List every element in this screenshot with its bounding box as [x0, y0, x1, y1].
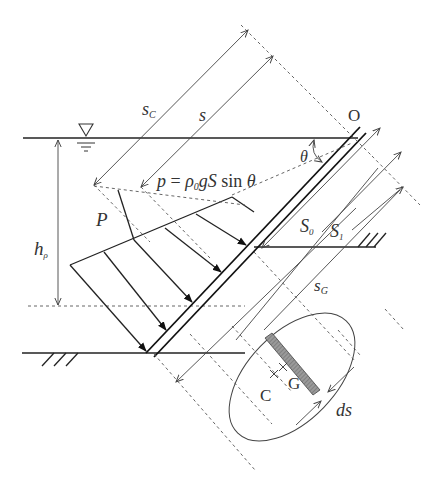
dashed-projector-1: [254, 252, 356, 362]
pressure-center-g-cross: [279, 363, 287, 371]
s-dashed-projector: [141, 187, 210, 258]
centroid-c-label: C: [260, 386, 271, 405]
depth-dimension: hρ: [34, 140, 58, 305]
dashed-projector-2: [154, 354, 255, 470]
ds-label: ds: [336, 400, 352, 420]
theta-label: θ: [300, 148, 308, 165]
s1-guide-line-2: [264, 190, 400, 330]
p-callout-line: [118, 190, 134, 240]
ds-arrow-top: [328, 367, 354, 392]
s-c-label: sC: [142, 99, 156, 120]
perpendicular-dashed-through-o: [241, 25, 372, 156]
s-c-arrow: [94, 30, 248, 185]
pressure-center-g-label: G: [288, 374, 300, 393]
dashed-projector-6: [385, 309, 404, 330]
bottom-ground: [22, 353, 245, 366]
pressure-top-edge: [70, 197, 232, 265]
pressure-formula: p = ρ0gS sin θ: [155, 171, 256, 192]
origin-label: O: [348, 106, 360, 125]
s1-arrow: [322, 152, 401, 232]
hydrostatic-inclined-plane-diagram: hρ sC s O θ: [0, 0, 446, 480]
centroid-c-cross: [270, 370, 278, 378]
s0-arrow: [262, 128, 380, 248]
depth-label: hρ: [34, 238, 49, 260]
s-label: s: [199, 105, 206, 125]
perpendicular-dashed-extension: [372, 156, 420, 205]
sg-label: sG: [314, 276, 328, 296]
s1-guide-line: [236, 168, 378, 340]
sg-arrow: [176, 208, 356, 382]
s0-label: S0: [300, 216, 314, 237]
dashed-projector-5: [338, 330, 360, 355]
right-ground: [254, 233, 386, 247]
inclined-plate: [146, 127, 366, 357]
total-force-label: P: [95, 209, 108, 230]
s-arrow: [141, 56, 273, 187]
